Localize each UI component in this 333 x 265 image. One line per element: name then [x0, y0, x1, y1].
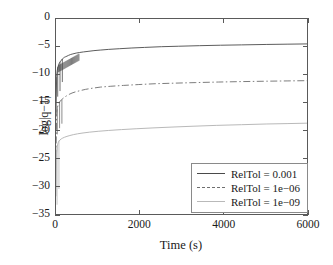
y-tick-label: −30 — [32, 180, 50, 192]
y-axis-tick — [303, 74, 308, 75]
legend-item: RelTol = 0.001 — [196, 167, 303, 181]
y-tick-label: −25 — [32, 152, 50, 164]
x-tick-label: 2000 — [128, 218, 151, 230]
x-axis-tick — [223, 18, 224, 23]
x-axis-tick — [139, 210, 140, 215]
x-axis-tick — [139, 18, 140, 23]
series-line — [56, 81, 308, 157]
chart-legend: RelTol = 0.001 RelTol = 1e−06 RelTol = 1… — [191, 163, 308, 213]
y-tick-label: 0 — [44, 11, 50, 23]
x-tick-label: 6000 — [297, 218, 320, 230]
y-tick-label: −35 — [32, 208, 50, 220]
y-tick-label: −10 — [32, 67, 50, 79]
y-axis-tick — [55, 215, 60, 216]
y-tick-label: −20 — [32, 124, 50, 136]
x-axis-tick — [55, 210, 56, 215]
series-line — [56, 44, 308, 112]
y-axis-tick — [303, 130, 308, 131]
y-tick-label: −5 — [38, 39, 50, 51]
legend-swatch-series2 — [196, 183, 226, 193]
y-axis-tick — [55, 46, 60, 47]
x-axis-label: Time (s) — [160, 238, 202, 253]
y-axis-tick — [55, 18, 60, 19]
legend-item: RelTol = 1e−09 — [196, 195, 303, 209]
figure: log|q−1| 0−5−10−15−20−25−30−350200040006… — [0, 0, 333, 265]
y-axis-tick — [55, 74, 60, 75]
y-axis-tick — [55, 102, 60, 103]
legend-label: RelTol = 0.001 — [226, 168, 297, 180]
legend-swatch-series3 — [196, 197, 226, 207]
legend-swatch-series1 — [196, 169, 226, 179]
y-axis-tick — [303, 158, 308, 159]
legend-item: RelTol = 1e−06 — [196, 181, 303, 195]
legend-label: RelTol = 1e−09 — [226, 196, 300, 208]
y-axis-tick — [55, 186, 60, 187]
y-axis-tick — [55, 158, 60, 159]
y-axis-tick — [303, 46, 308, 47]
legend-label: RelTol = 1e−06 — [226, 182, 300, 194]
y-tick-label: −15 — [32, 95, 50, 107]
x-tick-label: 4000 — [212, 218, 235, 230]
x-axis-tick — [308, 18, 309, 23]
x-tick-label: 0 — [52, 218, 58, 230]
y-axis-tick — [303, 102, 308, 103]
y-axis-tick — [55, 130, 60, 131]
series-serration — [59, 54, 79, 72]
x-axis-tick — [55, 18, 56, 23]
